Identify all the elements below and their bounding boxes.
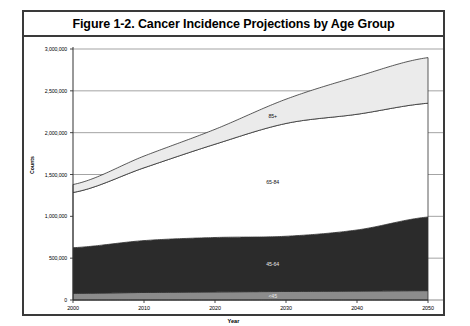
x-tick-label: 2040	[351, 305, 363, 311]
y-axis-label: Counts	[29, 156, 35, 174]
stacked-area-chart	[24, 37, 443, 316]
y-axis-tick-labels: 0500,0001,000,0001,500,0002,000,0002,500…	[24, 37, 67, 316]
y-tick-label: 2,500,000	[45, 88, 67, 94]
page-title: Figure 1-2. Cancer Incidence Projections…	[72, 17, 394, 31]
x-axis-tick-labels: 200020102020203020402050	[24, 305, 443, 317]
x-tick-label: 2000	[67, 305, 79, 311]
x-axis-label: Year	[24, 318, 443, 324]
x-tick-label: 2030	[280, 305, 292, 311]
figure-title-bar: Figure 1-2. Cancer Incidence Projections…	[24, 12, 443, 37]
x-tick-label: 2020	[209, 305, 221, 311]
y-tick-label: 2,000,000	[45, 130, 67, 136]
y-tick-label: 3,000,000	[45, 46, 67, 52]
chart-plot-area: 0500,0001,000,0001,500,0002,000,0002,500…	[24, 37, 443, 316]
y-tick-label: 500,000	[49, 255, 67, 261]
y-tick-label: 0	[64, 297, 67, 303]
x-tick-label: 2050	[422, 305, 434, 311]
figure-frame: Figure 1-2. Cancer Incidence Projections…	[22, 10, 445, 316]
x-tick-label: 2010	[138, 305, 150, 311]
y-tick-label: 1,000,000	[45, 213, 67, 219]
y-tick-label: 1,500,000	[45, 172, 67, 178]
